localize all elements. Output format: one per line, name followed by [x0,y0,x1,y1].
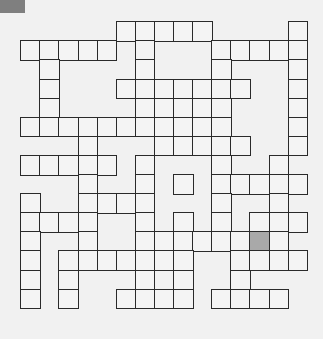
grid-cell[interactable] [78,250,99,271]
grid-cell[interactable] [211,98,232,119]
grid-cell[interactable] [192,21,213,42]
grid-cell[interactable] [230,79,251,100]
grid-cell[interactable] [269,174,290,195]
grid-cell[interactable] [154,98,175,119]
grid-cell[interactable] [135,59,156,80]
grid-cell[interactable] [269,212,290,233]
grid-cell[interactable] [288,21,309,42]
grid-cell[interactable] [249,289,270,310]
grid-cell[interactable] [288,212,309,233]
grid-cell[interactable] [58,289,79,310]
grid-cell[interactable] [173,212,194,233]
grid-cell[interactable] [39,59,60,80]
grid-cell[interactable] [173,270,194,291]
grid-cell[interactable] [97,193,118,214]
grid-cell[interactable] [78,117,99,138]
grid-cell[interactable] [288,40,309,61]
grid-cell[interactable] [39,117,60,138]
grid-cell[interactable] [58,40,79,61]
grid-cell[interactable] [288,79,309,100]
grid-cell[interactable] [230,136,251,157]
grid-cell[interactable] [135,231,156,252]
grid-cell[interactable] [230,270,251,291]
grid-cell[interactable] [288,136,309,157]
grid-cell[interactable] [135,98,156,119]
grid-cell[interactable] [78,174,99,195]
grid-cell[interactable] [20,193,41,214]
grid-cell[interactable] [288,59,309,80]
grid-cell[interactable] [230,231,251,252]
grid-cell[interactable] [58,250,79,271]
grid-cell[interactable] [211,289,232,310]
grid-cell[interactable] [211,59,232,80]
grid-cell[interactable] [135,40,156,61]
grid-cell[interactable] [20,40,41,61]
grid-cell[interactable] [116,250,137,271]
grid-cell[interactable] [154,136,175,157]
grid-cell[interactable] [20,212,41,233]
grid-cell[interactable] [173,174,194,195]
grid-cell[interactable] [173,117,194,138]
grid-cell[interactable] [173,79,194,100]
grid-cell[interactable] [116,79,137,100]
grid-cell[interactable] [249,250,270,271]
grid-cell[interactable] [20,117,41,138]
grid-cell[interactable] [58,155,79,176]
grid-cell[interactable] [173,250,194,271]
grid-cell[interactable] [116,289,137,310]
grid-cell[interactable] [173,98,194,119]
grid-cell[interactable] [97,40,118,61]
grid-cell[interactable] [154,117,175,138]
grid-cell[interactable] [211,193,232,214]
grid-cell[interactable] [135,193,156,214]
grid-cell[interactable] [230,40,251,61]
grid-cell[interactable] [97,250,118,271]
grid-cell[interactable] [20,270,41,291]
grid-cell[interactable] [39,79,60,100]
grid-cell[interactable] [173,231,194,252]
grid-cell[interactable] [192,136,213,157]
grid-cell[interactable] [78,193,99,214]
grid-cell[interactable] [249,174,270,195]
grid-cell[interactable] [58,212,79,233]
grid-cell[interactable] [288,250,309,271]
grid-cell[interactable] [230,174,251,195]
grid-cell[interactable] [269,40,290,61]
grid-cell[interactable] [20,231,41,252]
grid-cell[interactable] [78,40,99,61]
grid-cell[interactable] [288,117,309,138]
grid-cell[interactable] [39,98,60,119]
grid-cell[interactable] [135,174,156,195]
grid-cell[interactable] [211,231,232,252]
grid-cell[interactable] [269,231,290,252]
grid-cell[interactable] [39,40,60,61]
grid-cell[interactable] [211,136,232,157]
grid-cell[interactable] [135,117,156,138]
grid-cell[interactable] [116,193,137,214]
grid-cell[interactable] [211,40,232,61]
grid-cell[interactable] [39,155,60,176]
shaded-cell[interactable] [249,231,270,252]
grid-cell[interactable] [97,155,118,176]
grid-cell[interactable] [173,21,194,42]
grid-cell[interactable] [230,289,251,310]
grid-cell[interactable] [39,212,60,233]
grid-cell[interactable] [135,250,156,271]
grid-cell[interactable] [173,289,194,310]
grid-cell[interactable] [269,289,290,310]
grid-cell[interactable] [154,21,175,42]
grid-cell[interactable] [249,212,270,233]
grid-cell[interactable] [20,155,41,176]
grid-cell[interactable] [211,117,232,138]
grid-cell[interactable] [192,231,213,252]
grid-cell[interactable] [230,250,251,271]
grid-cell[interactable] [135,155,156,176]
grid-cell[interactable] [58,270,79,291]
grid-cell[interactable] [154,79,175,100]
grid-cell[interactable] [211,174,232,195]
grid-cell[interactable] [269,155,290,176]
grid-cell[interactable] [135,212,156,233]
grid-cell[interactable] [249,40,270,61]
grid-cell[interactable] [116,21,137,42]
grid-cell[interactable] [78,231,99,252]
